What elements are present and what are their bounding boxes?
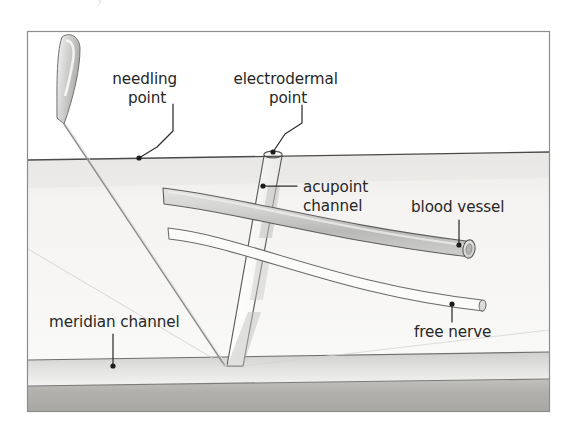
dot-free-nerve (449, 301, 454, 306)
label-acupoint-channel-line-0: acupoint (303, 178, 368, 196)
dot-electrodermal-point (270, 149, 275, 154)
label-electrodermal-point-line-1: point (269, 89, 307, 107)
figure-root: y (0, 0, 578, 439)
label-blood-vessel-line-0: blood vessel (411, 198, 504, 216)
label-needling-point-line-0: needling (112, 70, 177, 88)
label-meridian-channel-line-0: meridian channel (49, 313, 180, 331)
dot-needling-point (136, 155, 141, 160)
label-electrodermal-point-line-0: electrodermal (233, 70, 337, 88)
label-acupoint-channel-line-1: channel (303, 197, 362, 215)
dot-meridian-channel (110, 363, 115, 368)
label-needling-point-line-1: point (128, 89, 166, 107)
label-blood-vessel: blood vessel (411, 198, 504, 216)
dot-blood-vessel (456, 242, 461, 247)
dot-acupoint-channel (260, 183, 265, 188)
acupoint-anatomy-diagram: needling point electrodermal point acupo… (0, 0, 578, 439)
label-meridian-channel: meridian channel (49, 313, 180, 331)
label-free-nerve-line-0: free nerve (414, 323, 491, 341)
label-free-nerve: free nerve (414, 323, 491, 341)
